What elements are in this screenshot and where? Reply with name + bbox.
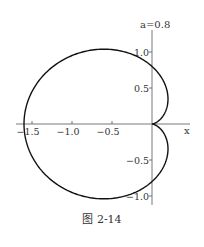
y-tick-label: 0.5 (134, 83, 149, 94)
y-tick-label: −1.0 (126, 191, 149, 202)
parameter-annotation: a=0.8 (140, 19, 170, 30)
x-tick-label: −1.5 (16, 126, 39, 137)
x-ticks: −1.5−1.0−0.5 (16, 121, 119, 137)
x-tick-label: −1.0 (56, 126, 79, 137)
y-tick-label: −0.5 (126, 155, 149, 166)
x-axis-label: x (184, 125, 190, 136)
figure-caption: 图 2-14 (0, 210, 204, 226)
x-tick-label: −0.5 (96, 126, 119, 137)
